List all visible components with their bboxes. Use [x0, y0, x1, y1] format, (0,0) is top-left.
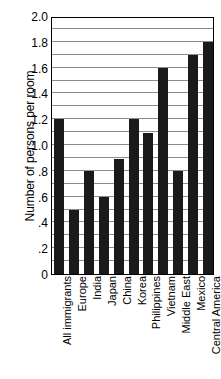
- y-axis-tick-label: 1.0: [31, 140, 48, 152]
- bar: [84, 171, 94, 274]
- bar: [54, 119, 64, 274]
- y-axis-tick-label: .4: [38, 217, 48, 229]
- bar: [69, 210, 79, 275]
- bar-chart: Number of persons per room 0.2.4.6.81.01…: [0, 0, 221, 379]
- x-axis-tick-label: All immigrants: [62, 276, 73, 376]
- bar: [129, 119, 139, 274]
- x-axis-tick-label: India: [92, 276, 103, 376]
- y-axis-tick-label: 1.6: [31, 63, 48, 75]
- x-axis-tick-label: Philippines: [151, 276, 162, 376]
- x-axis-tick-label: Central America: [211, 276, 221, 376]
- x-axis-tick-label: Vietnam: [166, 276, 177, 376]
- y-axis-tick-labels: 0.2.4.6.81.01.21.41.61.82.0: [16, 17, 48, 275]
- y-axis-tick-label: 1.4: [31, 88, 48, 100]
- x-axis-tick-label: Korea: [137, 276, 148, 376]
- plot-area: [51, 17, 214, 275]
- y-axis-tick-label: .8: [38, 166, 48, 178]
- bar: [114, 159, 124, 274]
- bar: [99, 197, 109, 274]
- y-axis-tick-label: 2.0: [31, 11, 48, 23]
- y-axis-tick-label: .6: [38, 192, 48, 204]
- y-axis-tick-label: 1.2: [31, 114, 48, 126]
- x-axis-tick-label: Japan: [107, 276, 118, 376]
- x-axis-tick-label: China: [122, 276, 133, 376]
- bar: [188, 55, 198, 274]
- y-axis-tick-label: 0: [41, 269, 48, 281]
- y-axis-tick-label: 1.8: [31, 37, 48, 49]
- y-axis-tick-label: .2: [38, 243, 48, 255]
- x-axis-tick-label: Europe: [77, 276, 88, 376]
- x-axis-tick-label: Middle East: [181, 276, 192, 376]
- x-axis-tick-labels: All immigrantsEuropeIndiaJapanChinaKorea…: [51, 276, 214, 379]
- bar: [158, 68, 168, 274]
- bar: [203, 42, 213, 274]
- bars-group: [52, 18, 213, 274]
- bar: [173, 171, 183, 274]
- x-axis-tick-label: Mexico: [196, 276, 207, 376]
- bar: [143, 133, 153, 274]
